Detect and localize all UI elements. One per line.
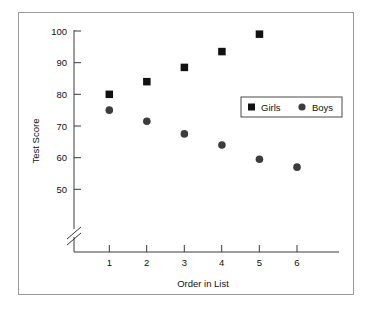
y-tick-label-100: 100 bbox=[51, 26, 67, 37]
data-point-girls bbox=[106, 91, 114, 99]
legend-label-girls: Girls bbox=[261, 102, 281, 113]
x-axis-title: Order in List bbox=[177, 278, 229, 289]
y-tick-marks bbox=[74, 31, 81, 189]
y-tick-label-60: 60 bbox=[56, 152, 67, 163]
x-tick-label-1: 1 bbox=[107, 257, 112, 268]
data-point-girls bbox=[256, 30, 264, 37]
data-point-boys bbox=[293, 163, 301, 171]
x-tick-label-4: 4 bbox=[219, 257, 224, 268]
y-tick-label-70: 70 bbox=[56, 121, 67, 132]
data-point-girls bbox=[181, 64, 189, 72]
data-point-boys bbox=[181, 130, 189, 138]
y-tick-label-90: 90 bbox=[56, 57, 67, 68]
y-axis-title: Test Score bbox=[30, 119, 41, 164]
legend-marker-circle-icon bbox=[298, 103, 305, 110]
legend-marker-square-icon bbox=[248, 104, 255, 111]
legend-label-boys: Boys bbox=[312, 102, 333, 113]
x-tick-marks bbox=[109, 245, 297, 252]
data-point-boys bbox=[143, 117, 151, 125]
y-tick-label-80: 80 bbox=[56, 89, 67, 100]
figure-container: 100 90 80 70 60 50 Test Score 1 2 3 4 5 bbox=[0, 0, 372, 309]
legend[interactable]: Girls Boys bbox=[241, 97, 342, 117]
scatter-plot: 100 90 80 70 60 50 Test Score 1 2 3 4 5 bbox=[19, 13, 355, 296]
data-point-girls bbox=[143, 78, 151, 86]
x-tick-label-3: 3 bbox=[182, 257, 187, 268]
x-tick-label-2: 2 bbox=[144, 257, 149, 268]
data-point-boys bbox=[218, 141, 226, 149]
data-point-boys bbox=[256, 155, 264, 163]
y-tick-label-50: 50 bbox=[56, 184, 67, 195]
x-tick-label-5: 5 bbox=[257, 257, 262, 268]
data-point-girls bbox=[218, 48, 226, 56]
x-tick-label-6: 6 bbox=[294, 257, 299, 268]
data-point-boys bbox=[106, 106, 114, 114]
chart-frame: 100 90 80 70 60 50 Test Score 1 2 3 4 5 bbox=[18, 12, 354, 295]
